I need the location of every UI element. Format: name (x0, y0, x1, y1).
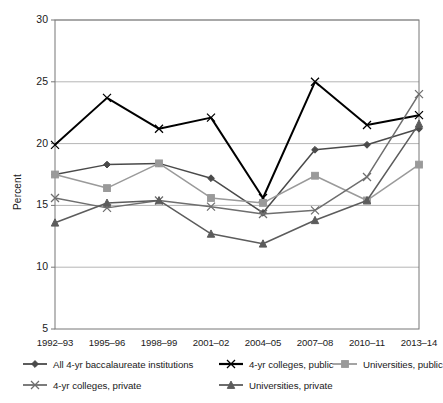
marker-triangle (415, 120, 422, 127)
legend-item[interactable]: 4-yr colleges, private (22, 379, 141, 391)
legend-item[interactable]: 4-yr colleges, public (218, 358, 334, 370)
marker-square (104, 185, 111, 192)
marker-x (363, 173, 371, 181)
legend-item[interactable]: Universities, private (218, 379, 332, 391)
marker-square (52, 171, 59, 178)
legend-label: All 4-yr baccalaureate institutions (53, 359, 193, 370)
marker-square (342, 361, 349, 368)
legend-key-x-icon (218, 358, 244, 370)
legend-key-square-icon (332, 358, 358, 370)
legend-key-x-icon (22, 379, 48, 391)
legend-item[interactable]: Universities, public (332, 358, 443, 370)
marker-diamond (104, 161, 111, 168)
marker-square (416, 161, 423, 168)
series-line (55, 124, 419, 244)
legend-key-triangle-icon (218, 379, 244, 391)
series-5 (51, 120, 422, 247)
marker-x (103, 94, 111, 102)
series-2 (51, 78, 423, 202)
legend-label: 4-yr colleges, private (53, 380, 141, 391)
legend-label: Universities, public (363, 359, 443, 370)
marker-diamond (32, 361, 39, 368)
marker-diamond (364, 141, 371, 148)
chart-legend: All 4-yr baccalaureate institutions4-yr … (22, 358, 433, 402)
legend-label: 4-yr colleges, public (249, 359, 334, 370)
legend-key-diamond-icon (22, 358, 48, 370)
marker-square (312, 172, 319, 179)
marker-square (156, 160, 163, 167)
legend-label: Universities, private (249, 380, 332, 391)
legend-item[interactable]: All 4-yr baccalaureate institutions (22, 358, 193, 370)
marker-square (208, 195, 215, 202)
marker-square (260, 200, 267, 207)
series-line (55, 82, 419, 198)
